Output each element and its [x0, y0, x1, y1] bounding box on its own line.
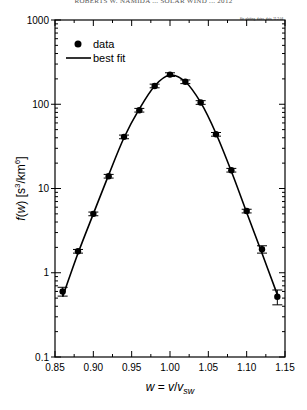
data-point [213, 131, 219, 137]
y-axis-label: f(w) [s3/km6] [13, 156, 28, 220]
x-tick-label: 1.10 [237, 362, 257, 373]
x-tick-label: 0.90 [84, 362, 104, 373]
data-point [59, 288, 65, 294]
data-point [274, 293, 280, 299]
legend-fit-label: best fit [93, 52, 125, 64]
data-point [121, 134, 127, 140]
x-tick-label: 0.85 [45, 362, 65, 373]
data-point [182, 79, 188, 85]
y-tick-label: 1 [43, 267, 49, 278]
best-fit-line [63, 75, 278, 297]
y-tick-label: 100 [32, 99, 49, 110]
data-point [75, 248, 81, 254]
data-point [136, 107, 142, 113]
x-tick-label: 1.15 [275, 362, 295, 373]
x-tick-label: 1.05 [199, 362, 219, 373]
chart: 0.111010010000.850.900.951.001.051.101.1… [0, 0, 307, 410]
x-tick-label: 1.00 [160, 362, 180, 373]
data-point [90, 211, 96, 217]
data-point [197, 99, 203, 105]
legend-data-marker [75, 41, 82, 48]
data-point [167, 71, 173, 77]
legend-data-label: data [93, 38, 115, 50]
plot-frame [55, 20, 285, 357]
data-point [105, 173, 111, 179]
data-point [151, 83, 157, 89]
x-axis-label: w = v/vsw [146, 380, 195, 396]
y-tick-label: 1000 [27, 15, 50, 26]
data-point [228, 167, 234, 173]
y-tick-label: 0.1 [35, 352, 49, 363]
data-point [243, 208, 249, 214]
y-tick-label: 10 [38, 183, 50, 194]
x-tick-label: 0.95 [122, 362, 142, 373]
data-point [259, 246, 265, 252]
